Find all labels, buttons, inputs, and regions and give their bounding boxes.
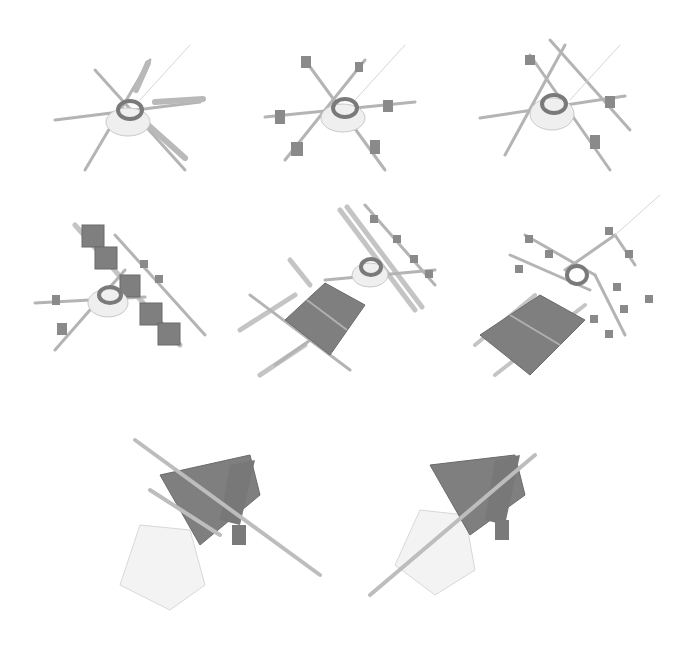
- render-panel-5: [235, 195, 450, 385]
- render-panel-2: [255, 30, 435, 180]
- folded-sheet-oar-render-left: [110, 435, 330, 615]
- radial-hub-render: [40, 30, 220, 180]
- render-panel-8: [365, 435, 585, 615]
- grid-panel-oars-render: [235, 195, 450, 385]
- crossing-rods-render: [470, 30, 650, 180]
- render-panel-4: [30, 215, 220, 365]
- render-panel-1: [40, 30, 220, 180]
- folded-sheet-oar-render-right: [365, 435, 585, 615]
- render-panel-7: [110, 435, 330, 615]
- box-rail-render: [30, 215, 220, 365]
- radial-hub-blocks-render: [255, 30, 435, 180]
- render-panel-6: [465, 195, 675, 385]
- render-panel-3: [470, 30, 650, 180]
- grid-panel-node-tree-render: [465, 195, 675, 385]
